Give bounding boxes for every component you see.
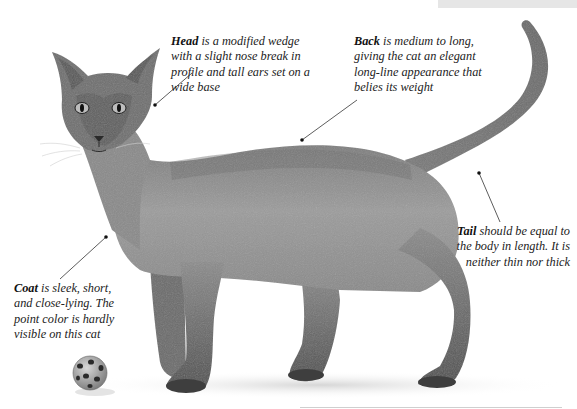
annotation-back: Back is medium to long, giving the cat a… [354, 34, 504, 96]
pointer-tail [477, 171, 500, 222]
pointer-coat [60, 235, 108, 279]
annotation-head-term: Head [171, 34, 198, 48]
annotation-head: Head is a modified wedge with a slight n… [171, 34, 321, 96]
pointer-back [300, 100, 357, 142]
annotation-tail-term: Tail [457, 224, 476, 238]
bottom-rule [300, 407, 562, 408]
annotation-coat-term: Coat [14, 281, 38, 295]
annotation-back-term: Back [354, 34, 380, 48]
annotation-tail: Tail should be equal to the body in leng… [455, 224, 570, 270]
annotation-coat: Coat is sleek, short, and close-lying. T… [14, 281, 126, 343]
ball-toy [73, 356, 115, 396]
